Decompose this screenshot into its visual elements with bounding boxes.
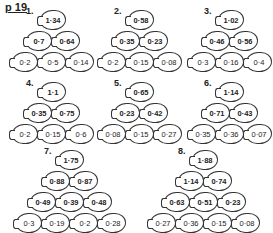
fish-cell: 0·88 bbox=[44, 171, 70, 191]
fish-cell: 0·15 bbox=[128, 124, 154, 144]
fish-cell: 0·71 bbox=[204, 103, 230, 123]
fish-cell: 0·65 bbox=[128, 82, 154, 102]
fish-cell: 1·14 bbox=[178, 171, 204, 191]
pyramid-number: 5. bbox=[114, 78, 122, 88]
fish-cell: 0·42 bbox=[142, 103, 168, 123]
fish-cell: 0·35 bbox=[190, 124, 216, 144]
fish-cell: 0·39 bbox=[58, 192, 84, 212]
fish-cell: 0·74 bbox=[206, 171, 232, 191]
fish-cell: 0·43 bbox=[232, 103, 258, 123]
fish-cell: 1·02 bbox=[218, 10, 244, 30]
fish-cell: 0·7 bbox=[26, 31, 52, 51]
fish-cell: 0·15 bbox=[40, 124, 66, 144]
fish-cell: 0·48 bbox=[86, 192, 112, 212]
page-label: p 19 bbox=[5, 1, 27, 13]
fish-cell: 1·1 bbox=[40, 82, 66, 102]
fish-cell: 0·07 bbox=[246, 124, 272, 144]
fish-cell: 0·2 bbox=[12, 124, 38, 144]
fish-cell: 0·75 bbox=[54, 103, 80, 123]
fish-cell: 1·34 bbox=[40, 10, 66, 30]
fish-cell: 0·35 bbox=[114, 31, 140, 51]
fish-cell: 0·2 bbox=[100, 52, 126, 72]
fish-cell: 0·64 bbox=[54, 31, 80, 51]
fish-cell: 0·5 bbox=[40, 52, 66, 72]
fish-cell: 0·16 bbox=[218, 52, 244, 72]
fish-cell: 0·23 bbox=[220, 192, 246, 212]
fish-cell: 0·08 bbox=[100, 124, 126, 144]
pyramid-number: 1. bbox=[26, 6, 34, 16]
fish-cell: 0·58 bbox=[128, 10, 154, 30]
fish-cell: 0·2 bbox=[12, 52, 38, 72]
fish-cell: 0·14 bbox=[68, 52, 94, 72]
fish-cell: 0·49 bbox=[30, 192, 56, 212]
pyramid-number: 6. bbox=[204, 78, 212, 88]
fish-cell: 0·3 bbox=[190, 52, 216, 72]
pyramid-number: 4. bbox=[26, 78, 34, 88]
fish-cell: 1·14 bbox=[218, 82, 244, 102]
fish-cell: 0·08 bbox=[156, 52, 182, 72]
fish-cell: 0·15 bbox=[128, 52, 154, 72]
fish-cell: 1·88 bbox=[192, 150, 218, 170]
fish-cell: 0·2 bbox=[72, 213, 98, 233]
fish-cell: 0·46 bbox=[204, 31, 230, 51]
fish-cell: 0·27 bbox=[150, 213, 176, 233]
fish-cell: 0·36 bbox=[218, 124, 244, 144]
fish-cell: 0·87 bbox=[72, 171, 98, 191]
fish-cell: 0·15 bbox=[206, 213, 232, 233]
fish-cell: 0·27 bbox=[156, 124, 182, 144]
pyramid-number: 2. bbox=[114, 6, 122, 16]
fish-cell: 1·75 bbox=[58, 150, 84, 170]
pyramid-number: 3. bbox=[204, 6, 212, 16]
pyramid-number: 8. bbox=[178, 146, 186, 156]
fish-cell: 0·19 bbox=[44, 213, 70, 233]
fish-cell: 0·23 bbox=[114, 103, 140, 123]
fish-cell: 0·63 bbox=[164, 192, 190, 212]
fish-cell: 0·4 bbox=[246, 52, 272, 72]
fish-cell: 0·28 bbox=[100, 213, 126, 233]
fish-cell: 0·23 bbox=[142, 31, 168, 51]
fish-cell: 0·56 bbox=[232, 31, 258, 51]
fish-cell: 0·36 bbox=[178, 213, 204, 233]
pyramid-number: 7. bbox=[44, 146, 52, 156]
fish-cell: 0·6 bbox=[68, 124, 94, 144]
fish-cell: 0·35 bbox=[26, 103, 52, 123]
fish-cell: 0·08 bbox=[234, 213, 260, 233]
fish-cell: 0·3 bbox=[16, 213, 42, 233]
fish-cell: 0·51 bbox=[192, 192, 218, 212]
